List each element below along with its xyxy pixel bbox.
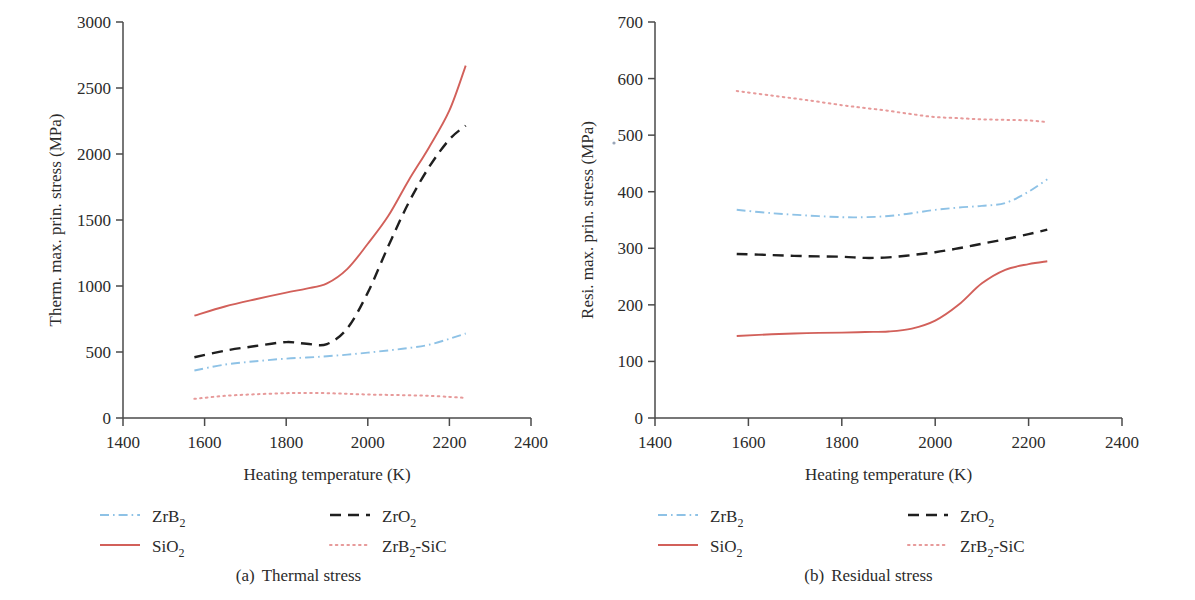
series-line-ZrB2-SiC: [737, 91, 1048, 122]
x-axis-title: Heating temperature (K): [243, 465, 410, 484]
y-tick-label: 0: [635, 409, 644, 428]
figure-root: 0500100015002000250030001400160018002000…: [0, 0, 1195, 600]
panel-b-caption-tag: (b): [804, 566, 824, 585]
legend-label-zro2: ZrO2: [382, 507, 416, 530]
y-tick-label: 200: [618, 296, 644, 315]
x-tick-label: 1600: [188, 433, 222, 452]
y-tick-label: 500: [86, 343, 112, 362]
y-tick-label: 3000: [77, 13, 111, 32]
legend-label-zrb2sic: ZrB2-SiC: [382, 537, 447, 560]
y-axis-title: Resi. max. prin. stress (MPa): [578, 121, 597, 319]
series-line-ZrO2: [737, 230, 1048, 258]
series-line-SiO2: [737, 261, 1048, 336]
x-tick-label: 2200: [432, 433, 466, 452]
legend-label-zro2: ZrO2: [960, 507, 994, 530]
y-tick-label: 2000: [77, 145, 111, 164]
series-line-ZrB2-SiC: [194, 393, 465, 399]
x-tick-label: 1800: [269, 433, 303, 452]
panel-a-caption-text: Thermal stress: [262, 566, 362, 585]
y-tick-label: 0: [103, 409, 112, 428]
panel-thermal-stress: 0500100015002000250030001400160018002000…: [0, 0, 597, 600]
x-tick-label: 2400: [1105, 433, 1139, 452]
panel-b-caption: (b)Residual stress: [570, 566, 1167, 586]
x-tick-label: 1600: [731, 433, 765, 452]
y-tick-label: 300: [618, 239, 644, 258]
y-tick-label: 600: [618, 70, 644, 89]
x-tick-label: 2200: [1012, 433, 1046, 452]
y-tick-label: 100: [618, 352, 644, 371]
thermal-stress-chart: 0500100015002000250030001400160018002000…: [0, 0, 597, 600]
series-line-ZrO2: [194, 126, 465, 358]
y-tick-label: 1000: [77, 277, 111, 296]
y-tick-label: 1500: [77, 211, 111, 230]
y-axis-title: Therm. max. prin. stress (MPa): [46, 114, 65, 327]
x-tick-label: 1400: [638, 433, 672, 452]
legend-label-sio2: SiO2: [710, 537, 742, 560]
y-tick-label: 400: [618, 183, 644, 202]
y-tick-label: 500: [618, 126, 644, 145]
x-tick-label: 2000: [351, 433, 385, 452]
legend-label-zrb2sic: ZrB2-SiC: [960, 537, 1025, 560]
scan-speck-artifact: [612, 141, 615, 144]
x-axis-title: Heating temperature (K): [805, 465, 972, 484]
series-line-SiO2: [194, 66, 465, 316]
panel-a-caption: (a)Thermal stress: [0, 566, 597, 586]
legend-label-zrb2: ZrB2: [710, 507, 743, 530]
y-tick-label: 2500: [77, 79, 111, 98]
panel-a-caption-tag: (a): [236, 566, 255, 585]
panel-b-caption-text: Residual stress: [831, 566, 933, 585]
residual-stress-chart: 0100200300400500600700140016001800200022…: [570, 0, 1195, 600]
x-tick-label: 2400: [514, 433, 548, 452]
legend-label-sio2: SiO2: [152, 537, 184, 560]
series-line-ZrB2: [194, 334, 465, 371]
legend-label-zrb2: ZrB2: [152, 507, 185, 530]
series-line-ZrB2: [737, 179, 1048, 217]
x-tick-label: 1400: [106, 433, 140, 452]
panel-residual-stress: 0100200300400500600700140016001800200022…: [570, 0, 1167, 600]
x-tick-label: 2000: [918, 433, 952, 452]
y-tick-label: 700: [618, 13, 644, 32]
x-tick-label: 1800: [825, 433, 859, 452]
